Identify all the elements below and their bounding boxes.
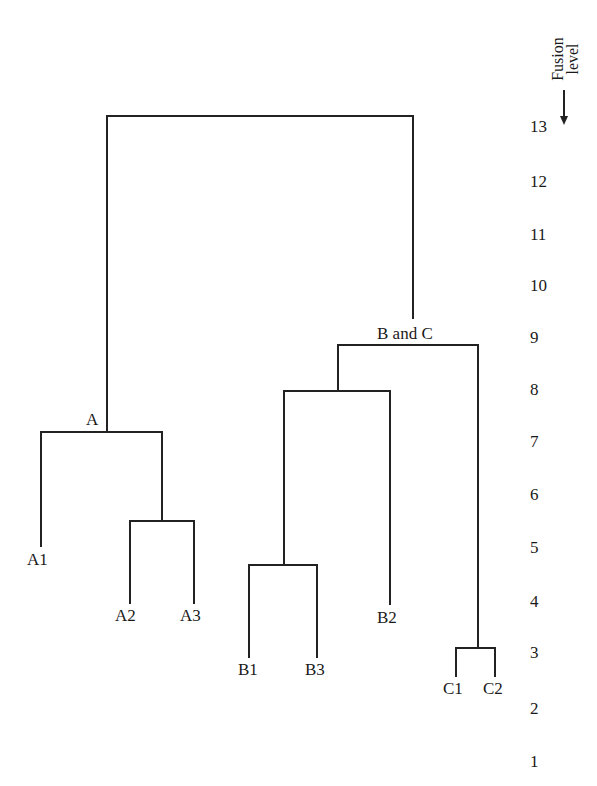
leaf-b1-branch (248, 564, 250, 658)
tick-2: 2 (530, 700, 560, 718)
tick-5: 5 (530, 539, 560, 557)
cluster-bc-merge-bar (337, 344, 479, 346)
down-arrow-icon (563, 90, 565, 118)
root-right-branch (412, 115, 414, 319)
tick-11: 11 (530, 226, 560, 244)
cluster-b13-merge-bar (248, 564, 318, 566)
tick-1: 1 (530, 753, 560, 771)
tick-12: 12 (530, 173, 560, 191)
cluster-label-b-and-c: B and C (377, 325, 433, 343)
leaf-label-b3: B3 (305, 661, 325, 679)
tick-7: 7 (530, 433, 560, 451)
cluster-c-merge-bar (455, 647, 496, 649)
leaf-c2-branch (494, 647, 496, 677)
tick-9: 9 (530, 329, 560, 347)
arrow-head-icon (560, 116, 568, 125)
cluster-label-a: A (86, 411, 98, 429)
tick-6: 6 (530, 486, 560, 504)
cluster-b13-stem (283, 390, 285, 566)
leaf-a1-branch (40, 431, 42, 547)
leaf-label-a3: A3 (180, 607, 201, 625)
leaf-label-a2: A2 (115, 607, 136, 625)
tick-4: 4 (530, 593, 560, 611)
tick-13: 13 (530, 118, 560, 136)
tick-10: 10 (530, 277, 560, 295)
leaf-c1-branch (455, 647, 457, 677)
leaf-label-b2: B2 (377, 609, 397, 627)
cluster-a23-stem (161, 431, 163, 522)
leaf-a2-branch (129, 520, 131, 604)
tick-8: 8 (530, 381, 560, 399)
axis-title-line1: Fusion (550, 37, 565, 81)
leaf-a3-branch (193, 520, 195, 604)
axis-title: Fusion level (545, 28, 585, 90)
leaf-b3-branch (316, 564, 318, 658)
cluster-b-stem (337, 344, 339, 392)
cluster-a23-merge-bar (129, 520, 195, 522)
root-merge-bar (106, 115, 414, 117)
leaf-label-b1: B1 (238, 661, 258, 679)
leaf-label-c2: C2 (483, 680, 503, 698)
cluster-b-merge-bar (283, 390, 391, 392)
tick-3: 3 (530, 644, 560, 662)
root-left-branch (106, 115, 108, 432)
cluster-c-stem (477, 344, 479, 648)
leaf-label-c1: C1 (443, 680, 463, 698)
leaf-label-a1: A1 (27, 551, 48, 569)
axis-title-line2: level (565, 37, 580, 81)
dendrogram: A A1 A2 A3 B and C B1 B2 B3 C1 C2 Fusion… (0, 0, 597, 786)
cluster-a-merge-bar (40, 431, 163, 433)
leaf-b2-branch (389, 390, 391, 605)
